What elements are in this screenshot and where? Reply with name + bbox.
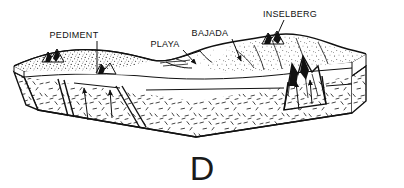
label-pediment: PEDIMENT (50, 30, 99, 40)
right-end-face-bedrock (352, 66, 366, 113)
panel-letter: D (190, 149, 215, 187)
label-inselberg: INSELBERG (263, 9, 317, 19)
label-playa: PLAYA (150, 39, 179, 49)
block-diagram-body (14, 31, 366, 137)
label-bajada: BAJADA (192, 28, 229, 38)
block-diagram-svg: PEDIMENT PLAYA BAJADA INSELBERG D (0, 0, 404, 188)
bajada-surface (204, 35, 366, 72)
figure-root: PEDIMENT PLAYA BAJADA INSELBERG D (0, 0, 404, 188)
